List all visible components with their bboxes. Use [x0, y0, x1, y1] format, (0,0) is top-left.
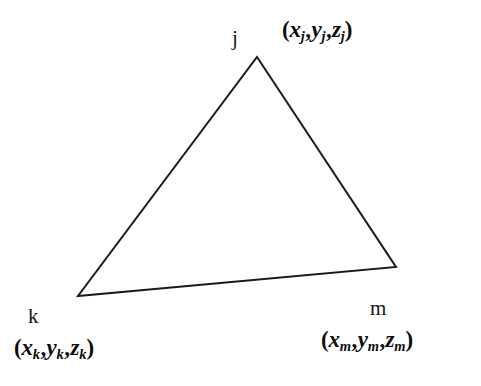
coord-y-subscript: k: [57, 346, 64, 362]
paren-close: ): [86, 335, 93, 360]
coord-z-var: z: [332, 17, 341, 42]
coordinate-label-k: (xk,yk,zk): [14, 336, 94, 359]
coord-y-subscript: j: [321, 28, 325, 44]
paren-close: ): [406, 327, 413, 352]
coord-z-subscript: k: [79, 346, 86, 362]
coord-x-subscript: k: [33, 346, 40, 362]
coord-x-var: x: [289, 17, 300, 42]
coord-z-var: z: [70, 335, 79, 360]
coord-y-subscript: m: [368, 338, 379, 354]
vertex-label-m: m: [370, 298, 386, 319]
coord-comma-1: ,: [41, 335, 47, 360]
coord-x-subscript: j: [301, 28, 305, 44]
coord-x-var: x: [21, 335, 32, 360]
coord-z-subscript: m: [394, 338, 405, 354]
coord-y-var: y: [358, 327, 368, 352]
coord-z-var: z: [385, 327, 394, 352]
coord-comma-2: ,: [326, 17, 332, 42]
coord-z-subscript: j: [341, 28, 345, 44]
figure-canvas: j k m (xj,yj,zj) (xk,yk,zk) (xm,ym,zm): [0, 0, 481, 386]
vertex-label-j: j: [232, 28, 238, 49]
coord-x-var: x: [328, 327, 339, 352]
paren-close: ): [345, 17, 352, 42]
coord-y-var: y: [47, 335, 57, 360]
coordinate-label-m: (xm,ym,zm): [321, 328, 413, 351]
coordinate-label-j: (xj,yj,zj): [282, 18, 352, 41]
coord-comma-1: ,: [352, 327, 358, 352]
coord-x-subscript: m: [340, 338, 351, 354]
vertex-label-k: k: [28, 306, 39, 327]
coord-y-var: y: [311, 17, 321, 42]
triangle-outline: [78, 57, 396, 296]
